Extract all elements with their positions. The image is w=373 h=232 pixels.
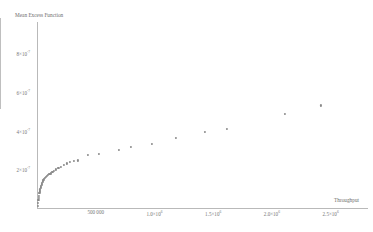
data-point xyxy=(38,195,40,197)
data-point xyxy=(38,192,40,194)
data-point xyxy=(66,162,68,164)
data-point xyxy=(175,137,177,139)
y-tick-label: 2×10-7 xyxy=(0,166,30,173)
data-point xyxy=(38,197,40,199)
data-point xyxy=(151,143,153,145)
x-tick-minor xyxy=(0,106,1,109)
data-point xyxy=(77,159,79,161)
data-point xyxy=(73,160,75,162)
data-point xyxy=(118,148,120,150)
x-axis-ticks: 500 0001.0×1061.5×1062.0×1062.5×106 xyxy=(0,18,373,109)
x-axis-title: Throughput xyxy=(334,198,359,203)
x-tick-label: 1.5×106 xyxy=(205,210,221,217)
scatter-chart: Mean Excess Function Throughput 2×10-74×… xyxy=(0,0,373,232)
y-tick-label: 8×10-7 xyxy=(0,50,30,57)
x-tick-label: 500 000 xyxy=(87,210,104,215)
data-point xyxy=(37,199,39,201)
data-point xyxy=(39,188,41,190)
y-axis-title: Mean Excess Function xyxy=(15,13,63,18)
data-point xyxy=(60,166,62,168)
x-tick-label: 2.5×106 xyxy=(323,210,339,217)
data-point xyxy=(98,153,100,155)
x-tick-label: 2.0×106 xyxy=(264,210,280,217)
data-point xyxy=(62,164,64,166)
data-point xyxy=(37,202,39,204)
y-axis-line xyxy=(37,22,38,209)
data-point xyxy=(37,205,39,207)
data-point xyxy=(69,160,71,162)
data-point xyxy=(39,190,41,192)
x-tick-label: 1.0×106 xyxy=(146,210,162,217)
data-point xyxy=(226,128,228,130)
data-point xyxy=(130,146,132,148)
data-point xyxy=(204,130,206,132)
data-point xyxy=(86,154,88,156)
data-point xyxy=(284,112,286,114)
y-tick-label: 6×10-7 xyxy=(0,89,30,96)
y-tick-label: 4×10-7 xyxy=(0,128,30,135)
